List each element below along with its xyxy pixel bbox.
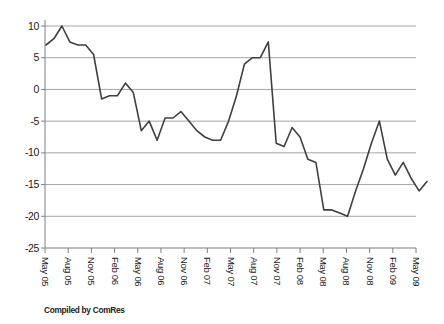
line-chart: 1050-5-10-15-20-25May 05Aug 05Nov 05Feb …	[0, 0, 444, 324]
y-axis-label: -10	[25, 146, 40, 158]
x-axis-label: Feb 07	[202, 257, 213, 285]
x-axis-label: Aug 07	[249, 257, 260, 285]
x-axis-label: May 09	[411, 257, 422, 286]
x-axis-label: Feb 09	[388, 257, 399, 285]
x-axis-label: May 08	[318, 257, 329, 286]
y-axis-label: -25	[25, 242, 40, 254]
x-axis-label: Nov 08	[365, 257, 376, 285]
x-axis-label: Nov 06	[179, 257, 190, 285]
x-axis-label: Nov 05	[86, 257, 97, 285]
chart-canvas: 1050-5-10-15-20-25May 05Aug 05Nov 05Feb …	[0, 0, 444, 324]
y-axis-label: 10	[28, 20, 39, 32]
x-axis-label: Feb 08	[295, 257, 306, 285]
y-axis-label: -15	[25, 178, 40, 190]
x-axis-label: Aug 06	[156, 257, 167, 285]
x-axis-label: Feb 06	[110, 257, 121, 285]
y-axis-label: -20	[25, 210, 40, 222]
x-axis-label: May 06	[133, 257, 144, 286]
y-axis-label: 0	[34, 83, 40, 95]
y-axis-label: -5	[30, 115, 39, 127]
x-axis-label: Aug 08	[341, 257, 352, 285]
x-axis-label: Aug 05	[63, 257, 74, 285]
x-axis-label: Nov 07	[272, 257, 283, 285]
x-axis-label: May 05	[40, 257, 51, 286]
x-axis-label: May 07	[226, 257, 237, 286]
y-axis-label: 5	[34, 51, 40, 63]
chart-credit: Compiled by ComRes	[44, 305, 125, 315]
